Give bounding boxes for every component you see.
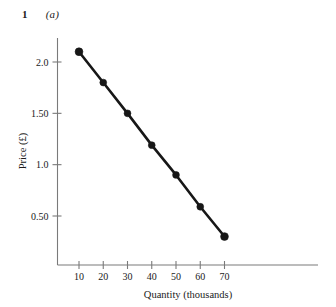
x-tick-label: 50 xyxy=(171,271,181,282)
y-tick-label: 2.0 xyxy=(36,57,49,68)
x-tick-label: 20 xyxy=(98,271,108,282)
data-point-marker xyxy=(75,48,83,56)
data-point-marker xyxy=(148,142,155,149)
y-tick-label: 1.50 xyxy=(31,108,49,119)
data-point-marker xyxy=(173,172,180,179)
x-tick-label: 30 xyxy=(123,271,133,282)
x-axis-ticks: 10203040506070 xyxy=(74,261,230,282)
x-tick-label: 60 xyxy=(195,271,205,282)
demand-curve-chart: 0.501.01.502.0 10203040506070 Quantity (… xyxy=(0,0,336,307)
x-tick-label: 40 xyxy=(147,271,157,282)
x-axis-title: Quantity (thousands) xyxy=(144,289,233,301)
data-point-marker xyxy=(197,203,204,210)
y-axis-ticks: 0.501.01.502.0 xyxy=(31,57,62,222)
x-tick-label: 70 xyxy=(220,271,230,282)
data-series-demand xyxy=(75,48,228,241)
y-tick-label: 0.50 xyxy=(31,211,49,222)
data-point-marker xyxy=(221,233,229,241)
figure-container: 1(a) 0.501.01.502.0 10203040506070 Quant… xyxy=(0,0,336,307)
x-tick-label: 10 xyxy=(74,271,84,282)
y-axis-title: Price (£) xyxy=(17,132,29,169)
data-point-marker xyxy=(124,110,131,117)
data-point-marker xyxy=(100,79,107,86)
y-tick-label: 1.0 xyxy=(36,159,49,170)
